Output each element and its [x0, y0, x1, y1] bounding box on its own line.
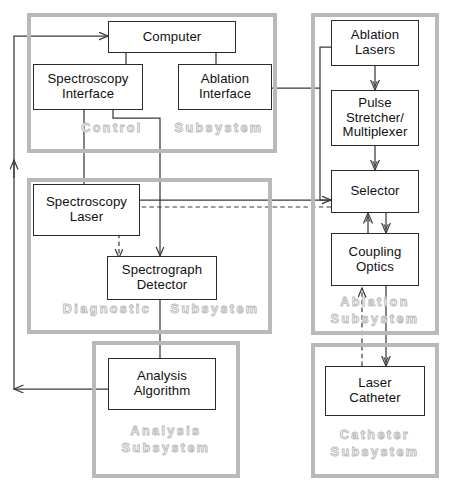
node-laser-catheter-label: LaserCatheter	[347, 376, 402, 406]
node-spectrograph-detector-label: SpectrographDetector	[120, 263, 204, 293]
node-ablation-interface[interactable]: AblationInterface	[178, 64, 272, 110]
node-analysis-algorithm-label: AnalysisAlgorithm	[132, 369, 193, 399]
node-ablation-lasers[interactable]: AblationLasers	[331, 20, 419, 66]
node-spectrograph-detector[interactable]: SpectrographDetector	[107, 256, 217, 300]
node-pulse-stretcher[interactable]: PulseStretcher/Multiplexer	[331, 90, 419, 146]
node-selector-label: Selector	[348, 184, 401, 199]
node-ablation-interface-label: AblationInterface	[197, 72, 253, 102]
node-computer[interactable]: Computer	[108, 21, 236, 53]
node-laser-catheter[interactable]: LaserCatheter	[325, 366, 425, 416]
node-selector[interactable]: Selector	[331, 170, 419, 213]
node-coupling-optics-label: CouplingOptics	[347, 245, 404, 275]
node-spectroscopy-laser[interactable]: SpectroscopyLaser	[33, 184, 140, 236]
node-analysis-algorithm[interactable]: AnalysisAlgorithm	[108, 358, 216, 410]
node-spectroscopy-interface-label: SpectroscopyInterface	[45, 72, 130, 102]
node-ablation-lasers-label: AblationLasers	[349, 28, 401, 58]
node-coupling-optics[interactable]: CouplingOptics	[331, 233, 419, 286]
system-block-diagram: Control Subsystem Diagnostic Subsystem A…	[0, 0, 453, 485]
node-computer-label: Computer	[141, 30, 204, 45]
node-pulse-stretcher-label: PulseStretcher/Multiplexer	[341, 96, 410, 140]
node-spectroscopy-interface[interactable]: SpectroscopyInterface	[33, 64, 143, 110]
node-spectroscopy-laser-label: SpectroscopyLaser	[44, 195, 129, 225]
